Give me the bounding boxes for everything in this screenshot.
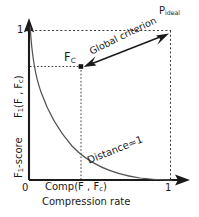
ideal-point-label-sub: ideal xyxy=(165,9,180,16)
x-axis-tick-0: 0 xyxy=(22,183,28,193)
fc-point-marker xyxy=(79,64,84,69)
operating-point-label-main: F xyxy=(64,50,71,64)
y-axis-title-suffix: -score xyxy=(13,137,24,167)
ideal-point-label: Pideal xyxy=(159,6,180,17)
x-axis-point-label: Comp(F , Fc) xyxy=(45,182,107,193)
y-axis-tick-1: 1 xyxy=(17,25,23,35)
x-axis-tick-1: 1 xyxy=(165,183,171,193)
y-axis-value-label-mid: (F , F xyxy=(13,83,24,108)
x-axis-point-label-prefix: Comp(F , F xyxy=(45,181,99,192)
y-axis-value-label-prefix: F xyxy=(13,112,24,118)
y-axis-value-label: F1(F , Fc) xyxy=(14,75,25,118)
x-axis-point-label-suffix: ) xyxy=(103,181,107,192)
global-criterion-arrowhead-left xyxy=(84,56,97,67)
y-axis-title: F1-score xyxy=(14,137,25,178)
operating-point-label-sub: C xyxy=(71,56,76,65)
x-axis-title: Compression rate xyxy=(42,197,130,207)
y-axis-value-label-sub: 1 xyxy=(17,108,25,112)
global-criterion-arrowhead-right xyxy=(156,34,169,45)
y-axis-title-main: F xyxy=(13,172,24,178)
y-axis-value-label-sub2: c xyxy=(17,79,25,83)
y-axis-value-label-suffix: ) xyxy=(13,75,24,79)
figure-canvas: Pideal FC Global criterion Distance≈1 1 … xyxy=(0,0,199,217)
operating-point-label: FC xyxy=(64,52,76,64)
y-axis-title-sub: 1 xyxy=(17,168,25,172)
